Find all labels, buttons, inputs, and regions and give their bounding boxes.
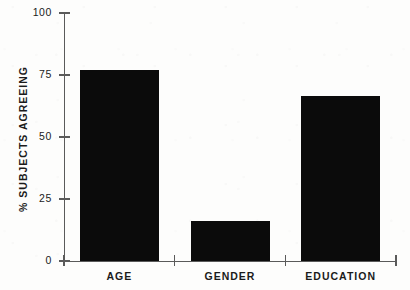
- x-tick-mark: [285, 255, 286, 266]
- x-tick-label-education: EDUCATION: [305, 270, 376, 282]
- y-tick-label: 75: [6, 68, 52, 80]
- bar-age: [80, 70, 159, 261]
- y-tick-mark: [59, 74, 70, 75]
- x-tick-label-gender: GENDER: [205, 270, 256, 282]
- bar-education: [301, 96, 380, 261]
- chart-figure: % SUBJECTS AGREEING 1007550250 AGEGENDER…: [0, 0, 410, 290]
- y-tick-mark: [59, 198, 70, 199]
- x-tick-mark: [395, 255, 396, 266]
- x-tick-mark: [174, 255, 175, 266]
- bar-gender: [191, 221, 270, 261]
- y-tick-label: 50: [6, 130, 52, 142]
- y-tick-label: 100: [6, 6, 52, 18]
- y-tick-label: 0: [6, 254, 52, 266]
- x-tick-mark: [63, 255, 64, 266]
- y-tick-label: 25: [6, 192, 52, 204]
- y-tick-mark: [59, 136, 70, 137]
- plot-area: % SUBJECTS AGREEING 1007550250 AGEGENDER…: [0, 0, 410, 290]
- y-tick-mark: [59, 12, 70, 13]
- x-tick-label-age: AGE: [106, 270, 132, 282]
